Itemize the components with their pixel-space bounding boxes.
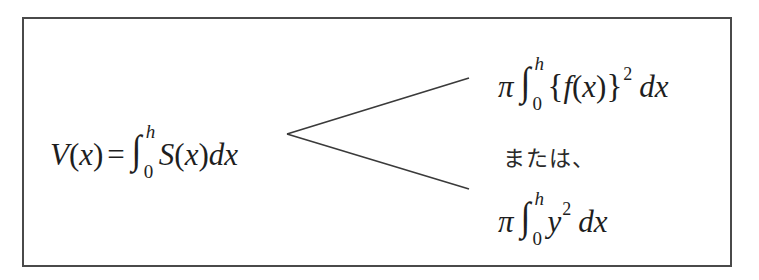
lower-limit: 0: [144, 162, 154, 181]
volume-formula-fx: π ∫ h 0 { f ( x ) } 2 dx: [498, 64, 669, 108]
integral-sign: ∫: [131, 130, 141, 170]
pi-symbol: π: [498, 206, 514, 237]
variable-x: x: [582, 71, 596, 102]
upper-limit: h: [535, 189, 545, 208]
integral-symbol: ∫ h 0: [520, 64, 546, 108]
volume-formula-y: π ∫ h 0 y 2 dx: [498, 199, 608, 243]
volume-integral-formula: V ( x ) = ∫ h 0 S ( x ) dx: [50, 132, 238, 176]
variable-x: x: [79, 139, 93, 170]
upper-limit: h: [535, 54, 545, 73]
upper-limit: h: [146, 122, 156, 141]
integral-symbol: ∫ h 0: [520, 199, 546, 243]
lower-limit: 0: [533, 94, 543, 113]
paren-close: ): [93, 139, 103, 170]
integral-sign: ∫: [520, 197, 530, 237]
integral-sign: ∫: [520, 62, 530, 102]
or-label: または、: [503, 140, 595, 172]
differential: dx: [578, 206, 607, 237]
differential: dx: [639, 71, 668, 102]
differential: dx: [209, 139, 238, 170]
brace-open: {: [548, 70, 564, 103]
variable-x: x: [185, 139, 199, 170]
exponent: 2: [623, 65, 632, 83]
paren-close: ): [596, 71, 606, 102]
integral-symbol: ∫ h 0: [131, 132, 157, 176]
paren-open: (: [69, 139, 79, 170]
brace-close: }: [606, 70, 622, 103]
lower-limit: 0: [533, 229, 543, 248]
variable-y: y: [548, 206, 562, 237]
volume-function-symbol: V: [50, 139, 69, 170]
exponent: 2: [562, 200, 571, 218]
paren-close: ): [198, 139, 208, 170]
branch-line-lower: [287, 134, 469, 189]
area-function-symbol: S: [159, 139, 175, 170]
function-f: f: [563, 71, 572, 102]
equals-sign: =: [107, 139, 124, 170]
pi-symbol: π: [498, 71, 514, 102]
branch-line-upper: [287, 78, 469, 134]
paren-open: (: [174, 139, 184, 170]
paren-open: (: [572, 71, 582, 102]
